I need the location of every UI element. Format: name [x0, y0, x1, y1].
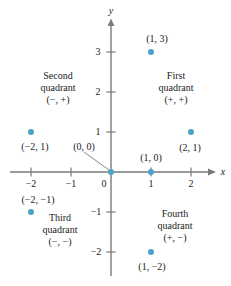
y-axis-label: y [109, 6, 113, 16]
quadrant-second-line1: Second [41, 70, 76, 82]
y-tick-label-1: 1 [96, 127, 101, 137]
quadrant-label-fourth: Fourth quadrant (+, −) [158, 208, 193, 244]
quadrant-first-signs: (+, +) [159, 94, 194, 106]
point-label--2-1: (−2, 1) [21, 141, 48, 152]
point-dot-1-3 [148, 49, 154, 55]
x-axis-arrow [208, 169, 216, 176]
quadrant-third-line2: quadrant [43, 224, 78, 236]
x-tick-label-2: 2 [189, 179, 194, 189]
quadrant-fourth-line2: quadrant [158, 220, 193, 232]
x-tick-label--2: −2 [26, 179, 37, 189]
point-dot--2--1 [28, 209, 34, 215]
point-dot-2-1 [188, 129, 194, 135]
point-label--2--1: (−2, −1) [22, 194, 55, 205]
coordinate-plane-figure: x y −2 −1 0 1 2 3 2 1 −1 −2 (1, 3) (−2, … [0, 0, 231, 286]
point-dot--2-1 [28, 129, 34, 135]
y-tick-label-2: 2 [96, 87, 101, 97]
origin-leader-line [84, 152, 109, 170]
point-label-1--2: (1, −2) [138, 261, 165, 272]
point-label-0-0: (0, 0) [73, 141, 95, 152]
x-tick-label-1: 1 [149, 179, 154, 189]
x-tick-label--1: −1 [66, 179, 77, 189]
y-tick-label--2: −2 [91, 247, 102, 257]
quadrant-second-signs: (−, +) [41, 94, 76, 106]
x-tick-label-0: 0 [102, 179, 107, 189]
x-axis-label: x [221, 167, 225, 177]
quadrant-first-line2: quadrant [159, 82, 194, 94]
point-label-1-0: (1, 0) [140, 152, 162, 163]
y-axis-arrow [108, 19, 115, 27]
point-dot-0-0 [108, 169, 114, 175]
point-dot-1--2 [148, 249, 154, 255]
quadrant-second-line2: quadrant [41, 82, 76, 94]
quadrant-label-third: Third quadrant (−, −) [43, 212, 78, 248]
point-label-1-3: (1, 3) [146, 33, 168, 44]
point-dot-1-0 [148, 169, 154, 175]
y-tick-label-3: 3 [96, 47, 101, 57]
quadrant-third-signs: (−, −) [43, 236, 78, 248]
point-label-2-1: (2, 1) [179, 142, 201, 153]
quadrant-fourth-signs: (+, −) [158, 232, 193, 244]
quadrant-fourth-line1: Fourth [158, 208, 193, 220]
quadrant-label-first: First quadrant (+, +) [159, 70, 194, 106]
quadrant-third-line1: Third [43, 212, 78, 224]
y-tick-label--1: −1 [91, 207, 102, 217]
quadrant-first-line1: First [159, 70, 194, 82]
quadrant-label-second: Second quadrant (−, +) [41, 70, 76, 106]
